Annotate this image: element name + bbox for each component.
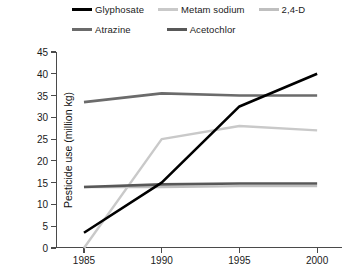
legend-label-acetochlor: Acetochlor — [190, 25, 236, 35]
x-tick-1995 — [239, 248, 240, 253]
y-tick-label-30: 30 — [37, 112, 48, 123]
legend-label-24d: 2,4-D — [282, 5, 306, 15]
legend-swatch-glyphosate — [72, 8, 92, 11]
x-tick-label-2000: 2000 — [306, 255, 328, 266]
legend-row-2: Atrazine Acetochlor — [72, 25, 250, 35]
legend-swatch-atrazine — [72, 28, 92, 31]
y-tick-label-5: 5 — [42, 221, 48, 232]
x-tick-2000 — [317, 248, 318, 253]
legend-label-glyphosate: Glyphosate — [95, 5, 144, 15]
legend-label-metam-sodium: Metam sodium — [181, 5, 245, 15]
legend-item-acetochlor: Acetochlor — [167, 25, 236, 35]
y-tick-label-35: 35 — [37, 90, 48, 101]
y-tick-label-20: 20 — [37, 155, 48, 166]
plot-area: 051015202530354045 1985199019952000 — [56, 52, 342, 248]
series-layer — [56, 52, 342, 248]
y-tick-label-45: 45 — [37, 47, 48, 58]
y-tick-label-0: 0 — [42, 242, 48, 253]
pesticide-use-line-chart: Glyphosate Metam sodium 2,4-D Atrazine A… — [0, 0, 353, 280]
legend-swatch-metam-sodium — [158, 8, 178, 11]
legend-row-1: Glyphosate Metam sodium 2,4-D — [72, 5, 319, 15]
legend-swatch-acetochlor — [167, 28, 187, 31]
series-line-atrazine — [84, 93, 317, 102]
x-tick-1990 — [161, 248, 162, 253]
legend-label-atrazine: Atrazine — [95, 25, 131, 35]
x-tick-label-1990: 1990 — [151, 255, 173, 266]
x-tick-1985 — [83, 248, 84, 253]
legend-item-metam-sodium: Metam sodium — [158, 5, 245, 15]
legend-swatch-24d — [259, 8, 279, 11]
y-tick-label-10: 10 — [37, 199, 48, 210]
x-tick-label-1985: 1985 — [73, 255, 95, 266]
chart-legend: Glyphosate Metam sodium 2,4-D Atrazine A… — [0, 0, 353, 46]
x-tick-label-1995: 1995 — [228, 255, 250, 266]
legend-item-24d: 2,4-D — [259, 5, 306, 15]
y-axis-title-wrap: Pesticide use (million kg) — [8, 52, 24, 248]
y-tick-label-25: 25 — [37, 134, 48, 145]
y-tick-label-40: 40 — [37, 68, 48, 79]
legend-item-atrazine: Atrazine — [72, 25, 131, 35]
y-tick-label-15: 15 — [37, 177, 48, 188]
legend-item-glyphosate: Glyphosate — [72, 5, 144, 15]
